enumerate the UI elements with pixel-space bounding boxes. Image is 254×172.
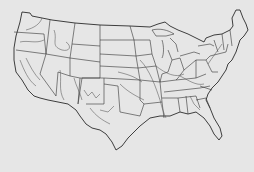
us-map: [0, 0, 254, 172]
great-lakes: [152, 29, 214, 58]
rivers: [20, 18, 222, 124]
state-boundaries: [14, 20, 232, 118]
country-outline: [14, 10, 248, 150]
